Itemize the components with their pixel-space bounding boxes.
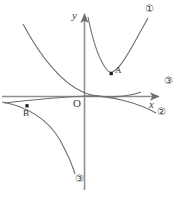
curve-3-lower-branch: [2, 102, 75, 174]
math-figure: y x O A B ① ③ ② ③: [0, 0, 184, 198]
curve-label-2: ②: [157, 108, 166, 118]
curve-label-3-right: ③: [164, 77, 173, 87]
point-marker-b: [25, 104, 28, 107]
origin-label: O: [73, 98, 81, 109]
point-label-a: A: [115, 66, 122, 75]
point-marker-a: [110, 72, 113, 75]
curve-label-3-bottom: ③: [75, 175, 84, 185]
y-axis-label: y: [72, 10, 77, 21]
point-label-b: B: [23, 109, 29, 118]
x-axis-label: x: [149, 99, 154, 110]
coordinate-plot: [0, 0, 184, 198]
curve-1: [88, 17, 148, 72]
curve-label-1: ①: [145, 5, 154, 15]
